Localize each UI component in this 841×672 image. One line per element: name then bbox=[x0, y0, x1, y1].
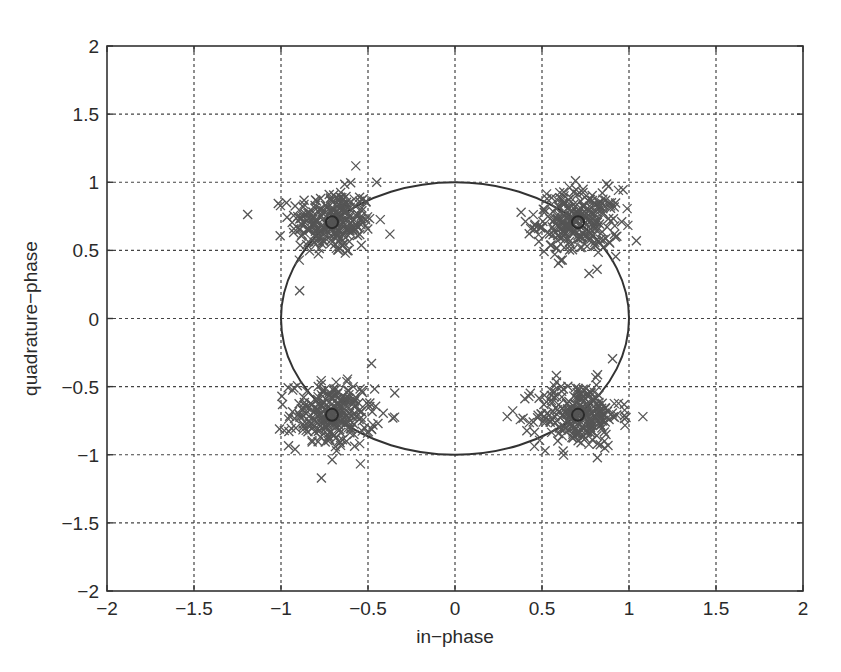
x-marker bbox=[308, 436, 317, 445]
x-tick-label: 0.5 bbox=[529, 598, 555, 619]
x-marker bbox=[608, 354, 617, 363]
x-marker bbox=[603, 441, 612, 450]
x-marker bbox=[503, 412, 512, 421]
constellation-chart: −2−1.5−1−0.500.511.52 −2−1.5−1−0.500.511… bbox=[0, 0, 841, 672]
x-marker bbox=[623, 204, 632, 213]
x-tick-label: −2 bbox=[96, 598, 118, 619]
x-tick-label: 2 bbox=[798, 598, 809, 619]
x-marker bbox=[357, 241, 366, 250]
x-marker bbox=[521, 217, 530, 226]
x-marker bbox=[530, 428, 539, 437]
x-marker bbox=[367, 359, 376, 368]
scatter-points bbox=[243, 161, 647, 482]
x-marker bbox=[379, 409, 388, 418]
x-marker bbox=[588, 435, 597, 444]
x-marker bbox=[317, 473, 326, 482]
x-marker bbox=[517, 208, 526, 217]
x-marker bbox=[390, 388, 399, 397]
x-marker bbox=[584, 269, 593, 278]
x-marker bbox=[604, 214, 613, 223]
x-tick-label: 1 bbox=[624, 598, 635, 619]
x-marker bbox=[243, 210, 252, 219]
x-marker bbox=[604, 182, 613, 191]
x-marker bbox=[611, 252, 620, 261]
x-tick-label: −1 bbox=[270, 598, 292, 619]
x-marker bbox=[554, 259, 563, 268]
x-marker bbox=[328, 455, 337, 464]
x-marker bbox=[522, 426, 531, 435]
x-tick-label: 0 bbox=[450, 598, 461, 619]
x-marker bbox=[385, 230, 394, 239]
x-marker bbox=[571, 176, 580, 185]
x-marker bbox=[287, 424, 296, 433]
x-marker bbox=[516, 415, 525, 424]
y-tick-label: 0 bbox=[88, 309, 99, 330]
x-marker bbox=[291, 202, 300, 211]
x-marker bbox=[537, 409, 546, 418]
x-marker bbox=[558, 431, 567, 440]
x-tick-label: 1.5 bbox=[703, 598, 729, 619]
x-marker bbox=[592, 381, 601, 390]
x-marker bbox=[579, 201, 588, 210]
x-marker bbox=[612, 232, 621, 241]
x-marker bbox=[632, 236, 641, 245]
x-marker bbox=[283, 213, 292, 222]
x-axis-ticks: −2−1.5−1−0.500.511.52 bbox=[96, 46, 808, 619]
x-marker bbox=[552, 371, 561, 380]
x-axis-label: in−phase bbox=[416, 626, 494, 647]
x-marker bbox=[542, 189, 551, 198]
x-tick-label: −1.5 bbox=[175, 598, 213, 619]
y-tick-label: −0.5 bbox=[61, 377, 99, 398]
y-tick-label: −1 bbox=[77, 445, 99, 466]
x-marker bbox=[277, 392, 286, 401]
y-tick-label: −2 bbox=[77, 581, 99, 602]
y-tick-label: 1.5 bbox=[73, 104, 99, 125]
x-marker bbox=[351, 161, 360, 170]
x-marker bbox=[638, 412, 647, 421]
grid-lines bbox=[107, 46, 803, 591]
x-marker bbox=[519, 414, 528, 423]
x-marker bbox=[296, 241, 305, 250]
x-marker bbox=[276, 231, 285, 240]
y-tick-label: 1 bbox=[88, 172, 99, 193]
x-marker bbox=[295, 286, 304, 295]
y-tick-label: −1.5 bbox=[61, 513, 99, 534]
x-marker bbox=[356, 459, 365, 468]
x-marker bbox=[340, 180, 349, 189]
x-marker bbox=[358, 416, 367, 425]
x-marker bbox=[593, 370, 602, 379]
x-marker bbox=[593, 453, 602, 462]
y-axis-label: quadrature−phase bbox=[20, 241, 41, 396]
x-marker bbox=[565, 183, 574, 192]
y-tick-label: 0.5 bbox=[73, 240, 99, 261]
x-marker bbox=[524, 392, 533, 401]
x-tick-label: −0.5 bbox=[349, 598, 387, 619]
x-marker bbox=[370, 384, 379, 393]
x-marker bbox=[593, 265, 602, 274]
x-marker bbox=[376, 215, 385, 224]
y-tick-label: 2 bbox=[88, 36, 99, 57]
x-marker bbox=[349, 382, 358, 391]
x-marker bbox=[526, 389, 535, 398]
x-marker bbox=[278, 400, 287, 409]
